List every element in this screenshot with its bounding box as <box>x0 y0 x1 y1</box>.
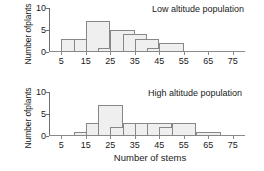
x-tick-label-65-bottom: 65 <box>198 140 218 150</box>
y-tick-5-bottom <box>46 114 49 115</box>
y-axis-tick-labels-bottom: 0510 <box>24 88 46 136</box>
bar-50-bottom <box>172 123 197 136</box>
x-tick-65-bottom <box>208 136 209 139</box>
y-tick-label-0-bottom: 0 <box>24 132 46 141</box>
bar-60-bottom <box>196 132 221 136</box>
chart-panel-low-altitude: Number of plants 0510 515253545556575 Lo… <box>0 0 264 80</box>
y-axis-tick-labels-top: 0510 <box>24 4 46 52</box>
x-tick-label-25-bottom: 25 <box>100 140 120 150</box>
x-tick-45-top <box>159 52 160 55</box>
x-tick-label-35-bottom: 35 <box>125 140 145 150</box>
x-tick-15-top <box>86 52 87 55</box>
x-tick-label-15-top: 15 <box>76 56 96 66</box>
x-tick-75-top <box>233 52 234 55</box>
x-axis-tick-labels-bottom: 515253545556575 <box>49 140 249 152</box>
y-tick-10-top <box>46 8 49 9</box>
x-tick-label-25-top: 25 <box>100 56 120 66</box>
x-tick-55-bottom <box>184 136 185 139</box>
x-axis-title: Number of stems <box>0 152 264 163</box>
x-tick-label-15-bottom: 15 <box>76 140 96 150</box>
y-tick-label-0-top: 0 <box>24 48 46 57</box>
y-tick-5-top <box>46 30 49 31</box>
x-tick-35-bottom <box>135 136 136 139</box>
panel-title-low-altitude: Low altitude population <box>152 4 244 15</box>
x-tick-5-bottom <box>61 136 62 139</box>
bar-45-top <box>159 43 184 52</box>
x-tick-25-top <box>110 52 111 55</box>
x-tick-label-45-bottom: 45 <box>149 140 169 150</box>
y-tick-10-bottom <box>46 92 49 93</box>
x-tick-label-5-bottom: 5 <box>51 140 71 150</box>
x-axis-tick-labels-top: 515253545556575 <box>49 56 249 68</box>
panel-title-high-altitude: High altitude population <box>148 88 242 99</box>
x-tick-label-35-top: 35 <box>125 56 145 66</box>
x-tick-25-bottom <box>110 136 111 139</box>
x-tick-75-bottom <box>233 136 234 139</box>
x-tick-15-bottom <box>86 136 87 139</box>
x-tick-label-75-top: 75 <box>223 56 243 66</box>
y-tick-0-bottom <box>46 136 49 137</box>
y-axis-line-bottom <box>49 92 50 136</box>
y-tick-label-5-top: 5 <box>24 26 46 35</box>
x-tick-label-55-top: 55 <box>174 56 194 66</box>
x-tick-45-bottom <box>159 136 160 139</box>
x-tick-35-top <box>135 52 136 55</box>
x-tick-label-55-bottom: 55 <box>174 140 194 150</box>
y-axis-line-top <box>49 8 50 52</box>
x-tick-5-top <box>61 52 62 55</box>
x-axis-title-text: Number of stems <box>78 152 186 163</box>
histogram-figure: Number of plants 0510 515253545556575 Lo… <box>0 0 264 171</box>
x-tick-65-top <box>208 52 209 55</box>
y-tick-label-10-bottom: 10 <box>24 88 46 97</box>
y-tick-label-10-top: 10 <box>24 4 46 13</box>
x-tick-label-45-top: 45 <box>149 56 169 66</box>
x-tick-label-65-top: 65 <box>198 56 218 66</box>
y-tick-label-5-bottom: 5 <box>24 110 46 119</box>
x-tick-label-75-bottom: 75 <box>223 140 243 150</box>
x-tick-55-top <box>184 52 185 55</box>
y-tick-0-top <box>46 52 49 53</box>
x-tick-label-5-top: 5 <box>51 56 71 66</box>
